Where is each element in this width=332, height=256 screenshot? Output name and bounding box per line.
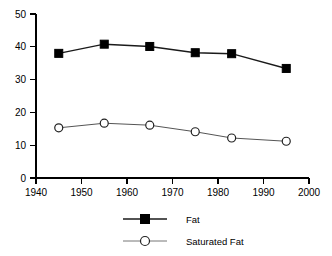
series-saturated-fat [55,119,291,145]
x-tick-label: 1990 [252,187,275,198]
x-tick-label: 1980 [207,187,230,198]
series-fat [55,40,291,72]
x-tick-label: 1950 [70,187,93,198]
chart-canvas: 01020304050 1940195019601970198019902000… [0,0,332,256]
x-axis-tick-labels: 1940195019601970198019902000 [25,187,321,198]
data-point-marker [100,40,108,48]
x-tick-label: 1960 [116,187,139,198]
legend-marker [141,215,150,224]
chart-legend: FatSaturated Fat [123,214,244,247]
legend-label: Fat [186,214,200,225]
y-tick-label: 30 [15,74,27,85]
y-axis: 01020304050 [15,9,36,184]
legend-entry: Saturated Fat [123,236,244,247]
data-point-marker [191,128,199,136]
legend-entry: Fat [123,214,200,225]
data-point-marker [146,42,154,50]
x-axis: 1940195019601970198019902000 [25,178,321,198]
y-tick-label: 50 [15,9,27,20]
x-tick-label: 1970 [161,187,184,198]
data-point-marker [282,64,290,72]
x-axis-ticks [36,178,309,184]
legend-marker [141,237,150,246]
y-tick-label: 20 [15,107,27,118]
y-tick-label: 10 [15,140,27,151]
data-point-marker [100,119,108,127]
data-point-marker [228,134,236,142]
series-line [59,44,287,68]
y-axis-ticks [30,14,36,178]
data-point-marker [228,50,236,58]
x-tick-label: 2000 [298,187,321,198]
y-tick-label: 0 [20,173,26,184]
data-point-marker [191,49,199,57]
data-point-marker [55,124,63,132]
y-tick-label: 40 [15,41,27,52]
data-point-marker [146,121,154,129]
y-axis-tick-labels: 01020304050 [15,9,27,184]
line-chart: 01020304050 1940195019601970198019902000… [0,0,332,256]
data-point-marker [282,137,290,145]
data-series-layer [55,40,291,145]
legend-label: Saturated Fat [186,236,244,247]
x-tick-label: 1940 [25,187,48,198]
data-point-marker [55,49,63,57]
series-line [59,123,287,141]
